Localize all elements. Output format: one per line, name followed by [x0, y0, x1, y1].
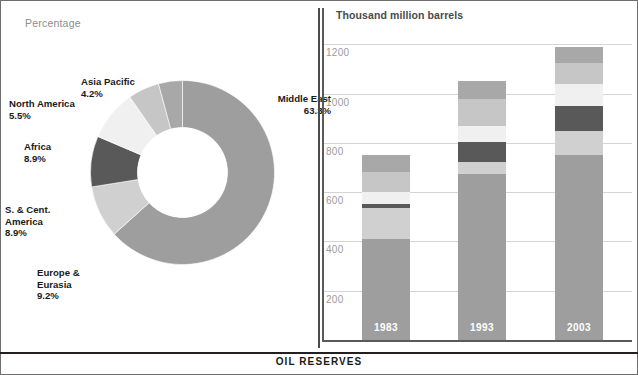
bar-1983-segment-s-cent-america: [362, 204, 410, 208]
bar-chart-x-axis-line: [322, 340, 632, 342]
bar-2003-segment-europe-eurasia: [555, 131, 603, 155]
figure-root: Percentage Asia Pacific 4.2% North Ameri…: [0, 0, 638, 375]
bar-1993-segment-s-cent-america: [458, 142, 506, 162]
bar-1993: 1993: [458, 0, 506, 375]
percentage-panel-label: Percentage: [25, 17, 81, 29]
bar-1993-segment-africa: [458, 126, 506, 142]
y-tick-label-200: 200: [326, 294, 344, 305]
y-tick-label-600: 600: [326, 195, 344, 206]
bar-1983-segment-north-america: [362, 172, 410, 192]
bar-1993-segment-asia-pacific: [458, 81, 506, 98]
y-tick-label-1000: 1000: [326, 97, 349, 108]
donut-label-europe-eurasia-value: 9.2%: [37, 290, 107, 302]
bar-2003: 2003: [555, 0, 603, 375]
bar-1993-segment-north-america: [458, 99, 506, 126]
bar-1993-segment-middle-east: [458, 174, 506, 340]
donut-label-north-america: North America 5.5%: [9, 98, 125, 121]
donut-label-africa: Africa 8.9%: [24, 141, 90, 164]
bar-chart-y-axis-line: [322, 8, 324, 340]
bar-year-label-2003: 2003: [555, 322, 603, 333]
bar-1983-segment-africa: [362, 192, 410, 204]
donut-label-europe-eurasia-name2: Eurasia: [37, 279, 107, 291]
bar-year-label-1983: 1983: [362, 322, 410, 333]
donut-label-north-america-name: North America: [9, 98, 125, 110]
bar-year-label-1993: 1993: [458, 322, 506, 333]
donut-label-north-america-value: 5.5%: [9, 110, 125, 122]
donut-label-s-cent-america: S. & Cent. America 8.9%: [5, 204, 90, 239]
bar-2003-segment-s-cent-america: [555, 106, 603, 131]
donut-hole: [138, 128, 228, 218]
donut-label-asia-pacific: Asia Pacific 4.2%: [81, 76, 169, 99]
donut-label-africa-name: Africa: [24, 141, 90, 153]
y-tick-label-400: 400: [326, 244, 344, 255]
y-tick-label-1200: 1200: [326, 47, 349, 58]
bar-2003-segment-middle-east: [555, 155, 603, 340]
bar-2003-segment-africa: [555, 84, 603, 106]
donut-label-s-cent-america-name1: S. & Cent.: [5, 204, 90, 216]
donut-label-europe-eurasia: Europe & Eurasia 9.2%: [37, 267, 107, 302]
bar-1983-segment-europe-eurasia: [362, 208, 410, 239]
bar-1993-segment-europe-eurasia: [458, 162, 506, 174]
donut-label-africa-value: 8.9%: [24, 153, 90, 165]
bar-2003-segment-asia-pacific: [555, 47, 603, 63]
y-tick-label-800: 800: [326, 146, 344, 157]
bar-2003-segment-north-america: [555, 63, 603, 84]
donut-label-asia-pacific-name: Asia Pacific: [81, 76, 169, 88]
footer-divider: [0, 352, 638, 354]
bar-1983: 1983: [362, 0, 410, 375]
donut-label-europe-eurasia-name1: Europe &: [37, 267, 107, 279]
bar-1983-segment-asia-pacific: [362, 155, 410, 173]
donut-label-s-cent-america-value: 8.9%: [5, 227, 90, 239]
bar-chart: Thousand million barrels 200400600800100…: [318, 0, 638, 375]
figure-caption: OIL RESERVES: [0, 356, 638, 367]
donut-label-s-cent-america-name2: America: [5, 216, 90, 228]
frame-left-border: [0, 0, 1, 375]
